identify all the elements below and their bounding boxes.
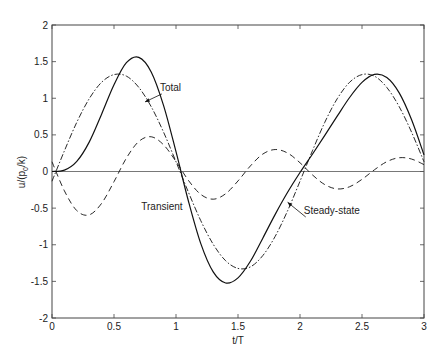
annotation-steady-state: Steady-state	[304, 205, 361, 216]
y-tick-label: -2	[39, 313, 48, 324]
y-tick-label: -1	[39, 239, 48, 250]
x-axis-label: t/T	[232, 335, 244, 346]
y-tick-label: -1.5	[31, 276, 49, 287]
y-tick-label: 0.5	[34, 129, 48, 140]
annotation-transient: Transient	[141, 201, 183, 212]
y-tick-label: 1	[42, 93, 48, 104]
x-tick-label: 1.5	[231, 321, 245, 332]
x-tick-label: 2	[297, 321, 303, 332]
y-tick-label: -0.5	[31, 203, 49, 214]
y-axis-label-tail: /k)	[16, 156, 27, 167]
annotation-total: Total	[160, 82, 181, 93]
x-tick-label: 1	[173, 321, 179, 332]
x-tick-label: 0.5	[107, 321, 121, 332]
x-tick-label: 0	[49, 321, 55, 332]
y-axis-label: u/(p0/k)	[16, 156, 29, 188]
y-tick-label: 0	[42, 166, 48, 177]
chart: 00.511.522.53-2-1.5-1-0.500.511.52 Total…	[0, 0, 446, 359]
y-tick-label: 1.5	[34, 56, 48, 67]
x-tick-label: 2.5	[355, 321, 369, 332]
x-tick-label: 3	[421, 321, 427, 332]
y-axis-label-main: u/(p	[16, 170, 27, 188]
y-tick-label: 2	[42, 20, 48, 31]
